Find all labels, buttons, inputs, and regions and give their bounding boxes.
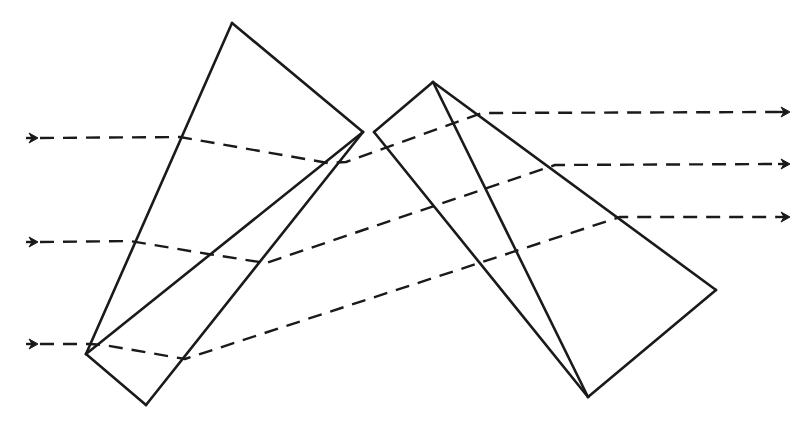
input-arrow-icon bbox=[26, 133, 38, 143]
output-arrow-icon bbox=[778, 107, 790, 117]
dashed-light-ray bbox=[40, 112, 778, 163]
ray-bottom bbox=[26, 212, 790, 359]
prism-edge bbox=[588, 290, 716, 397]
prism-edge bbox=[374, 82, 433, 132]
prism-ray-diagram bbox=[0, 0, 811, 431]
prism-group bbox=[86, 23, 716, 405]
prism-edge bbox=[146, 132, 363, 405]
left-prism-assembly bbox=[86, 23, 363, 405]
output-arrow-icon bbox=[778, 159, 790, 169]
input-arrow-icon bbox=[26, 237, 38, 247]
prism-edge bbox=[86, 354, 146, 405]
prism-edge bbox=[86, 23, 232, 354]
dashed-light-ray bbox=[40, 164, 778, 263]
input-arrow-icon bbox=[26, 339, 38, 349]
ray-top bbox=[26, 107, 790, 163]
output-arrow-icon bbox=[778, 212, 790, 222]
right-prism-assembly bbox=[374, 82, 716, 397]
prism-edge bbox=[232, 23, 363, 132]
prism-edge bbox=[433, 82, 588, 397]
dashed-light-ray bbox=[40, 217, 778, 359]
